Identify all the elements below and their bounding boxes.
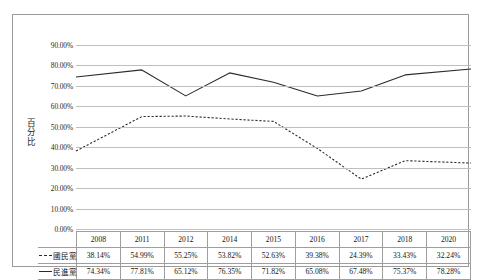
y-axis-tick-label: 50.00% <box>51 122 73 131</box>
table-corner-cell <box>38 232 77 248</box>
table-row: 國民黨38.14%54.99%55.25%53.82%52.63%39.38%2… <box>38 248 471 264</box>
legend-label: 國民黨 <box>53 250 76 261</box>
y-axis-tick-label: 20.00% <box>51 184 73 193</box>
gridline <box>76 65 471 66</box>
gridline <box>76 127 471 128</box>
solid-line-icon <box>39 269 52 274</box>
table-cell: 71.82% <box>252 264 296 280</box>
y-axis-tick-label: 10.00% <box>51 204 73 213</box>
gridline <box>76 147 471 148</box>
table-cell: 77.81% <box>120 264 164 280</box>
gridline <box>76 168 471 169</box>
table-header-year-2018: 2018 <box>383 232 427 248</box>
table-cell: 74.34% <box>77 264 121 280</box>
legend-entry-民進黨: 民進黨 <box>38 264 77 280</box>
table-cell: 38.14% <box>77 248 121 264</box>
table-cell: 53.82% <box>208 248 252 264</box>
data-table: 200820112012201420152016201720182020 國民黨… <box>38 231 471 280</box>
table-head: 200820112012201420152016201720182020 <box>38 232 471 248</box>
table-cell: 33.43% <box>383 248 427 264</box>
table-cell: 55.25% <box>164 248 208 264</box>
y-axis-tick-label: 60.00% <box>51 102 73 111</box>
table-cell: 52.63% <box>252 248 296 264</box>
y-axis-tick-label: 30.00% <box>51 163 73 172</box>
table-cell: 67.48% <box>339 264 383 280</box>
table-cell: 65.12% <box>164 264 208 280</box>
gridline <box>76 188 471 189</box>
table-header-year-2020: 2020 <box>427 232 471 248</box>
table-body: 國民黨38.14%54.99%55.25%53.82%52.63%39.38%2… <box>38 248 471 280</box>
y-axis-tick-label: 80.00% <box>51 61 73 70</box>
plot-area <box>76 45 471 229</box>
table-cell: 54.99% <box>120 248 164 264</box>
gridline <box>76 45 471 46</box>
gridline <box>76 209 471 210</box>
table-header-row: 200820112012201420152016201720182020 <box>38 232 471 248</box>
gridline <box>76 106 471 107</box>
table-cell: 24.39% <box>339 248 383 264</box>
table-header-year-2014: 2014 <box>208 232 252 248</box>
table-cell: 76.35% <box>208 264 252 280</box>
table-cell: 32.24% <box>427 248 471 264</box>
y-axis-tick-label: 40.00% <box>51 143 73 152</box>
table-row: 民進黨74.34%77.81%65.12%76.35%71.82%65.08%6… <box>38 264 471 280</box>
y-axis-tick-labels: 90.00%80.00%70.00%60.00%50.00%40.00%30.0… <box>27 45 76 229</box>
y-axis-tick-label: 90.00% <box>51 41 73 50</box>
series-line-dpp <box>76 69 471 96</box>
table-cell: 65.08% <box>295 264 339 280</box>
table-header-year-2016: 2016 <box>295 232 339 248</box>
legend-label: 民進黨 <box>53 266 76 277</box>
table-cell: 78.28% <box>427 264 471 280</box>
table-header-year-2015: 2015 <box>252 232 296 248</box>
table-cell: 75.37% <box>383 264 427 280</box>
y-axis-tick-label: 70.00% <box>51 81 73 90</box>
gridline <box>76 86 471 87</box>
series-lines <box>76 45 471 229</box>
table-cell: 39.38% <box>295 248 339 264</box>
gridline <box>76 229 471 230</box>
table-header-year-2011: 2011 <box>120 232 164 248</box>
table-header-year-2008: 2008 <box>77 232 121 248</box>
chart-frame: 百 分 比 90.00%80.00%70.00%60.00%50.00%40.0… <box>12 14 469 267</box>
table-header-year-2017: 2017 <box>339 232 383 248</box>
legend-entry-國民黨: 國民黨 <box>38 248 77 264</box>
table-header-year-2012: 2012 <box>164 232 208 248</box>
dashed-line-icon <box>39 253 52 258</box>
